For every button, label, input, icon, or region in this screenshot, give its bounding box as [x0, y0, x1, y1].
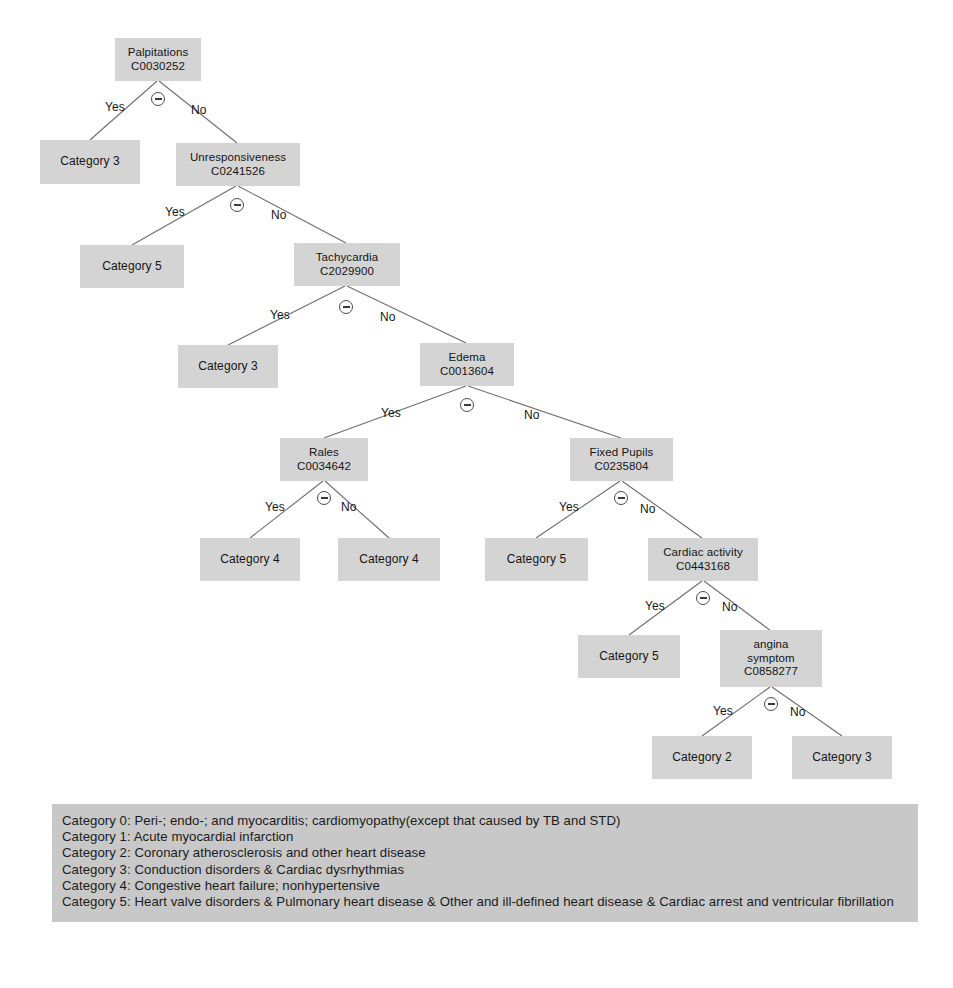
node-category2-label: Category 2: [672, 751, 732, 765]
decision-tree-canvas: Palpitations C0030252 Yes No Category 3 …: [0, 0, 953, 988]
node-category4-b-label: Category 4: [359, 553, 419, 567]
node-category2[interactable]: Category 2: [652, 736, 752, 779]
node-tachycardia-name: Tachycardia: [316, 251, 378, 265]
branch-label-cardiacactivity-yes: Yes: [645, 599, 665, 613]
edge-edema-no: [468, 386, 621, 438]
branch-label-rales-yes: Yes: [265, 500, 285, 514]
branch-label-tachycardia-no: No: [380, 310, 396, 324]
node-category3-a[interactable]: Category 3: [40, 140, 140, 184]
edge-unresponsiveness-no: [238, 186, 346, 243]
node-edema[interactable]: Edema C0013604: [420, 343, 514, 386]
legend-line-category1: Category 1: Acute myocardial infarction: [62, 829, 910, 845]
branch-label-palpitations-yes: Yes: [105, 100, 125, 114]
minus-circle-icon[interactable]: [460, 398, 474, 412]
node-category3-a-label: Category 3: [60, 155, 120, 169]
branch-label-palpitations-no: No: [191, 103, 207, 117]
node-rales-name: Rales: [309, 446, 339, 460]
edge-rales-no: [325, 481, 389, 538]
branch-label-unresponsiveness-no: No: [271, 208, 287, 222]
node-category4-a[interactable]: Category 4: [200, 538, 300, 581]
node-angina-symptom-code: C0858277: [744, 665, 798, 679]
edge-rales-yes: [250, 481, 323, 538]
branch-label-rales-no: No: [341, 500, 357, 514]
node-angina-symptom[interactable]: angina symptom C0858277: [720, 630, 822, 687]
minus-circle-icon[interactable]: [317, 491, 331, 505]
node-category4-a-label: Category 4: [220, 553, 280, 567]
minus-circle-icon[interactable]: [151, 92, 165, 106]
branch-label-edema-yes: Yes: [381, 406, 401, 420]
branch-label-fixedpupils-no: No: [640, 502, 656, 516]
node-tachycardia-code: C2029900: [320, 265, 374, 279]
node-angina-symptom-name-line1: angina: [753, 638, 788, 652]
node-category4-b[interactable]: Category 4: [338, 538, 440, 581]
node-angina-symptom-name-line2: symptom: [747, 652, 794, 666]
legend-line-category2: Category 2: Coronary atherosclerosis and…: [62, 845, 910, 861]
node-category5-b-label: Category 5: [507, 553, 567, 567]
branch-label-cardiacactivity-no: No: [722, 600, 738, 614]
node-palpitations-name: Palpitations: [128, 46, 189, 60]
node-fixed-pupils-name: Fixed Pupils: [590, 446, 654, 460]
legend-line-category5: Category 5: Heart valve disorders & Pulm…: [62, 894, 910, 910]
node-tachycardia[interactable]: Tachycardia C2029900: [294, 243, 400, 286]
minus-circle-icon[interactable]: [764, 697, 778, 711]
category-legend: Category 0: Peri-; endo-; and myocarditi…: [52, 804, 918, 922]
node-palpitations-code: C0030252: [131, 60, 185, 74]
edge-tachycardia-no: [347, 286, 466, 343]
legend-line-category3: Category 3: Conduction disorders & Cardi…: [62, 862, 910, 878]
node-fixed-pupils-code: C0235804: [595, 460, 649, 474]
legend-line-category0: Category 0: Peri-; endo-; and myocarditi…: [62, 813, 910, 829]
node-category3-c[interactable]: Category 3: [792, 736, 892, 779]
node-category5-b[interactable]: Category 5: [485, 538, 588, 581]
branch-label-fixedpupils-yes: Yes: [559, 500, 579, 514]
minus-circle-icon[interactable]: [614, 491, 628, 505]
node-category5-c-label: Category 5: [599, 650, 659, 664]
minus-circle-icon[interactable]: [339, 300, 353, 314]
node-edema-code: C0013604: [440, 365, 494, 379]
node-category5-c[interactable]: Category 5: [578, 635, 680, 678]
minus-circle-icon[interactable]: [230, 198, 244, 212]
branch-label-edema-no: No: [524, 408, 540, 422]
node-unresponsiveness-code: C0241526: [211, 165, 265, 179]
node-unresponsiveness-name: Unresponsiveness: [190, 151, 286, 165]
branch-label-unresponsiveness-yes: Yes: [165, 205, 185, 219]
edge-fixedpupils-no: [622, 481, 702, 538]
node-unresponsiveness[interactable]: Unresponsiveness C0241526: [176, 143, 300, 186]
node-cardiac-activity-code: C0443168: [676, 560, 730, 574]
node-category3-c-label: Category 3: [812, 751, 872, 765]
node-edema-name: Edema: [449, 351, 486, 365]
node-rales-code: C0034642: [297, 460, 351, 474]
node-category5-a-label: Category 5: [102, 260, 162, 274]
edge-cardiacactivity-yes: [629, 581, 702, 635]
node-palpitations[interactable]: Palpitations C0030252: [115, 38, 201, 81]
minus-circle-icon[interactable]: [696, 591, 710, 605]
branch-label-angina-yes: Yes: [713, 704, 733, 718]
node-rales[interactable]: Rales C0034642: [280, 438, 368, 481]
branch-label-tachycardia-yes: Yes: [270, 308, 290, 322]
legend-line-category4: Category 4: Congestive heart failure; no…: [62, 878, 910, 894]
branch-label-angina-no: No: [790, 705, 806, 719]
node-category3-b-label: Category 3: [198, 360, 258, 374]
edge-angina-no: [772, 687, 842, 736]
node-cardiac-activity-name: Cardiac activity: [663, 546, 743, 560]
node-cardiac-activity[interactable]: Cardiac activity C0443168: [648, 538, 758, 581]
node-category5-a[interactable]: Category 5: [80, 245, 184, 288]
node-category3-b[interactable]: Category 3: [178, 345, 278, 388]
node-fixed-pupils[interactable]: Fixed Pupils C0235804: [570, 438, 673, 481]
